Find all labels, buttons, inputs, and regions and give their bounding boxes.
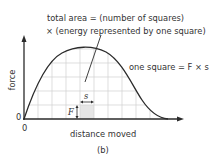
x-origin-label: 0 [22, 123, 27, 133]
leader-line [85, 35, 101, 82]
annotation-total-area-line1: total area = (number of squares) [47, 13, 184, 23]
annotation-one-square: one square = F × s [129, 62, 209, 72]
annotation-total-area-line2: × (energy represented by one square) [46, 26, 206, 36]
grid [24, 30, 180, 119]
y-axis [22, 35, 27, 120]
force-curve [24, 47, 168, 119]
square-width-label: s [84, 91, 88, 101]
x-axis-arrow-icon [177, 117, 184, 122]
f-height-arrow [76, 105, 79, 119]
shaded-square [80, 105, 94, 119]
x-axis-label: distance moved [70, 129, 136, 139]
square-height-label: F [68, 107, 74, 117]
figure-caption: (b) [97, 145, 109, 155]
y-axis-arrow-icon [22, 35, 27, 42]
y-origin-label: 0 [16, 112, 21, 122]
y-axis-label: force [7, 67, 17, 93]
